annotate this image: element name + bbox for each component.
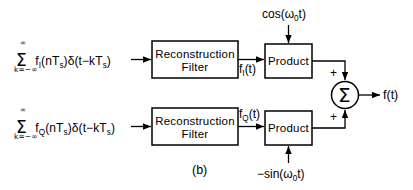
- filter-label-line2-i: Filter: [152, 61, 238, 74]
- input-expression-quadrature: ∞ Σ k=−∞ fQ(nTs)δ(t−kTs): [16, 118, 115, 135]
- input-expr-part4-i: ): [107, 54, 111, 68]
- carrier-label-sin: −sin(ω0t): [257, 168, 305, 180]
- wire-product-i-to-summer: [312, 61, 345, 80]
- input-expr-part2-q: (nT: [45, 121, 63, 135]
- product-label-i: Product: [265, 55, 312, 68]
- reconstruction-filter-label-q: Reconstruction Filter: [152, 115, 238, 141]
- product-label-q: Product: [265, 122, 312, 135]
- carrier-sin-main: −sin(ω: [257, 167, 293, 181]
- signal-fi-rest: (t): [245, 62, 256, 76]
- summer-plus-sign-lower: +: [330, 110, 337, 124]
- filter-label-line1-i: Reconstruction: [152, 48, 238, 61]
- wire-product-q-to-summer: [312, 110, 345, 128]
- product-text-i: Product: [268, 55, 309, 67]
- signal-label-fi: fI(t): [239, 63, 256, 75]
- product-text-q: Product: [268, 122, 309, 134]
- sum-lower-limit-i: k=−∞: [14, 66, 38, 74]
- carrier-label-cos: cos(ω0t): [262, 8, 306, 20]
- diagram-vector-layer: [0, 0, 413, 190]
- input-expr-part2-i: (nT: [41, 54, 59, 68]
- carrier-cos-rest: t): [299, 7, 306, 21]
- carrier-cos-main: cos(ω: [262, 7, 294, 21]
- filter-label-line2-q: Filter: [152, 128, 238, 141]
- summer-plus-sign-upper: +: [330, 66, 337, 80]
- reconstruction-filter-label-i: Reconstruction Filter: [152, 48, 238, 74]
- sum-upper-limit-q: ∞: [20, 107, 26, 114]
- signal-label-fq: fQ(t): [239, 108, 260, 120]
- filter-label-line1-q: Reconstruction: [152, 115, 238, 128]
- input-expression-inphase: ∞ Σ k=−∞ fI(nTs)δ(t−kTs): [16, 51, 111, 68]
- sum-lower-limit-q: k=−∞: [14, 133, 38, 141]
- sum-upper-limit-i: ∞: [20, 40, 26, 47]
- figure-caption: (b): [192, 163, 207, 177]
- output-signal-label: f(t): [383, 88, 398, 102]
- input-expr-part3-i: )δ(t−kT: [64, 54, 103, 68]
- input-expr-part3-q: )δ(t−kT: [68, 121, 107, 135]
- summing-junction-symbol: Σ: [338, 85, 351, 105]
- carrier-sin-rest: t): [297, 167, 304, 181]
- block-diagram-figure: ∞ Σ k=−∞ fI(nTs)δ(t−kTs) Reconstruction …: [0, 0, 413, 190]
- input-expr-part4-q: ): [111, 121, 115, 135]
- signal-fq-rest: (t): [249, 107, 260, 121]
